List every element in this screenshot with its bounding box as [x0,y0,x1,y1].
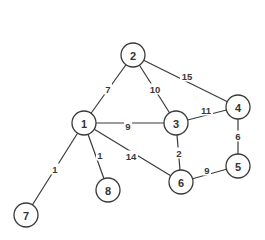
edge-weight-2-3: 10 [148,84,162,95]
edge-weight-label: 11 [201,105,212,116]
edge-weight-4-5: 6 [234,131,242,142]
edge-weight-label: 7 [105,84,110,95]
node-label: 3 [173,118,179,130]
node-label: 6 [178,177,184,189]
edge-weight-label: 9 [125,121,130,132]
node-3: 3 [164,111,188,135]
node-label: 5 [235,161,241,173]
node-label: 7 [23,210,29,222]
edge-weight-3-4: 11 [199,105,213,116]
edge-weight-3-6: 2 [175,148,183,159]
edge-weight-label: 2 [176,148,181,159]
edges-layer [26,55,238,215]
node-5: 5 [226,154,250,178]
node-label: 1 [81,118,87,130]
node-label: 4 [235,102,242,114]
nodes-layer: 12345678 [14,43,250,227]
node-label: 2 [130,50,136,62]
node-1: 1 [72,111,96,135]
node-4: 4 [226,95,250,119]
edge-weight-label: 14 [126,151,137,162]
edge-weight-label: 15 [182,71,193,82]
graph-canvas: 710159112691411 12345678 [0,0,265,240]
edge-weight-label: 6 [235,131,240,142]
node-6: 6 [169,170,193,194]
edge-weight-6-5: 9 [203,165,211,176]
edge-weight-label: 1 [97,150,103,161]
edge-weight-1-2: 7 [104,84,112,95]
node-2: 2 [121,43,145,67]
edge-weight-1-8: 1 [96,150,104,161]
edge-weight-1-6: 14 [124,151,138,162]
node-label: 8 [105,185,111,197]
edge-weight-2-4: 15 [180,71,194,82]
edge-weight-label: 10 [150,84,161,95]
edge-weight-1-3: 9 [124,121,132,132]
node-7: 7 [14,203,38,227]
edge-weight-label: 9 [204,165,209,176]
edge-weight-1-7: 1 [51,164,59,175]
edge-weight-label: 1 [52,164,58,175]
node-8: 8 [96,178,120,202]
